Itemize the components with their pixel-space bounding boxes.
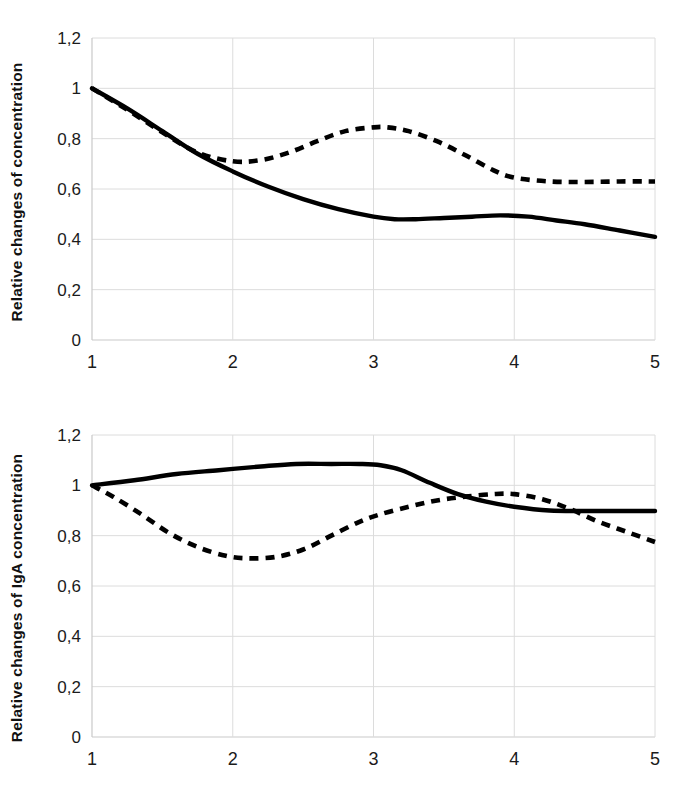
gridlines bbox=[92, 435, 655, 737]
x-tick-label: 1 bbox=[87, 749, 97, 769]
y-tick-label: 1,2 bbox=[57, 426, 81, 445]
y-tick-label: 1 bbox=[72, 79, 81, 98]
y-tick-label: 0,2 bbox=[57, 281, 81, 300]
y-tick-label: 0,2 bbox=[57, 678, 81, 697]
plot-area-bottom: 00,20,40,60,811,212345 bbox=[0, 400, 679, 805]
y-tick-label: 0,8 bbox=[57, 527, 81, 546]
y-tick-label: 0 bbox=[72, 331, 81, 350]
y-tick-label: 0,4 bbox=[57, 627, 81, 646]
plot-area-top: 00,20,40,60,811,212345 bbox=[0, 0, 679, 400]
y-tick-label: 1,2 bbox=[57, 29, 81, 48]
y-tick-label: 1 bbox=[72, 476, 81, 495]
y-tick-label: 0,8 bbox=[57, 130, 81, 149]
x-tick-label: 5 bbox=[650, 352, 660, 372]
y-tick-label: 0,6 bbox=[57, 180, 81, 199]
x-tick-labels: 12345 bbox=[87, 749, 660, 769]
x-tick-label: 3 bbox=[368, 352, 378, 372]
y-tick-labels: 00,20,40,60,811,2 bbox=[57, 426, 81, 747]
x-tick-label: 5 bbox=[650, 749, 660, 769]
x-tick-labels: 12345 bbox=[87, 352, 660, 372]
x-tick-label: 4 bbox=[509, 749, 519, 769]
chart-panel-bottom: Relative changes of IgA concentration 00… bbox=[0, 400, 679, 805]
x-tick-label: 1 bbox=[87, 352, 97, 372]
gridlines bbox=[92, 38, 655, 340]
chart-panel-top: Relative changes of concentration 00,20,… bbox=[0, 0, 679, 400]
y-tick-label: 0,6 bbox=[57, 577, 81, 596]
y-tick-labels: 00,20,40,60,811,2 bbox=[57, 29, 81, 350]
x-tick-label: 2 bbox=[228, 749, 238, 769]
y-tick-label: 0 bbox=[72, 728, 81, 747]
x-tick-label: 3 bbox=[368, 749, 378, 769]
x-tick-label: 4 bbox=[509, 352, 519, 372]
y-tick-label: 0,4 bbox=[57, 230, 81, 249]
x-tick-label: 2 bbox=[228, 352, 238, 372]
